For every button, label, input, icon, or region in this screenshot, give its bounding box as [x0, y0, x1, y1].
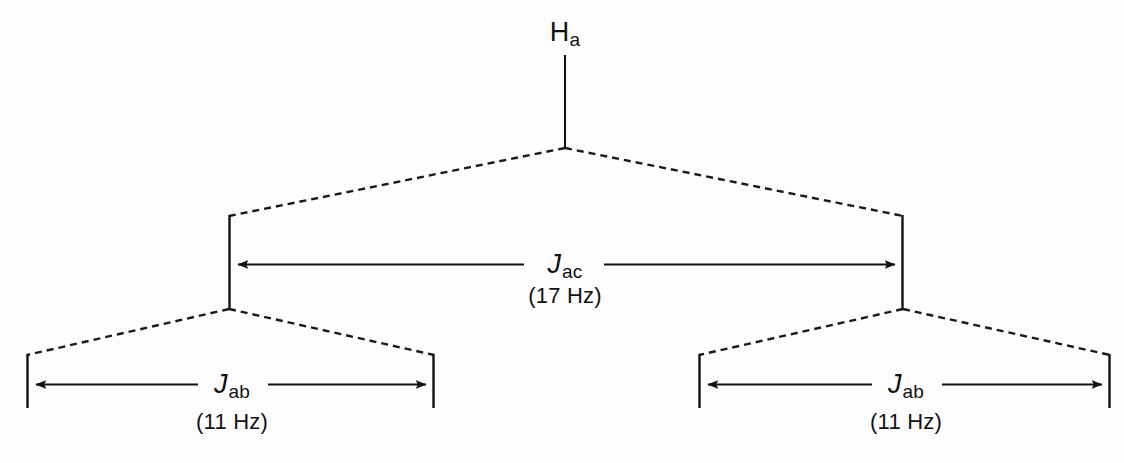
dashed-branch-left-level1 — [229, 148, 565, 216]
coupling-label-jab-right: Jab — [888, 371, 924, 401]
dashed-branch-right-level2-left — [699, 309, 903, 355]
nucleus-subscript: a — [569, 29, 580, 50]
coupling-subscript-jac: ac — [562, 261, 583, 282]
dashed-branch-right-level1 — [565, 148, 903, 216]
dashed-branch-left-level2-left — [27, 309, 229, 355]
nucleus-symbol: H — [550, 17, 570, 47]
coupling-value-jab-right: (11 Hz) — [870, 411, 942, 433]
coupling-symbol-jab-left: J — [214, 369, 229, 399]
nucleus-label-ha: Ha — [550, 19, 581, 49]
coupling-label-jab-left: Jab — [214, 371, 250, 401]
final-peak-lines — [28, 354, 1110, 408]
coupling-subscript-jab-left: ab — [228, 381, 250, 402]
coupling-subscript-jab-right: ab — [902, 381, 924, 402]
level1-dashed-branches — [229, 148, 903, 216]
dashed-branch-left-level2-right — [229, 309, 434, 355]
coupling-value-jac: (17 Hz) — [528, 285, 602, 307]
coupling-label-jac: Jac — [547, 251, 582, 281]
splitting-tree-svg — [0, 0, 1124, 463]
level2-dashed-branches-left — [27, 309, 434, 355]
coupling-symbol-jac: J — [547, 249, 562, 279]
coupling-value-jab-left: (11 Hz) — [196, 411, 268, 433]
level2-dashed-branches-right — [699, 309, 1110, 355]
dashed-branch-right-level2-right — [903, 309, 1110, 355]
nmr-splitting-tree-diagram: Ha Jac (17 Hz) Jab (11 Hz) Jab (11 Hz) — [0, 0, 1124, 463]
coupling-symbol-jab-right: J — [888, 369, 903, 399]
